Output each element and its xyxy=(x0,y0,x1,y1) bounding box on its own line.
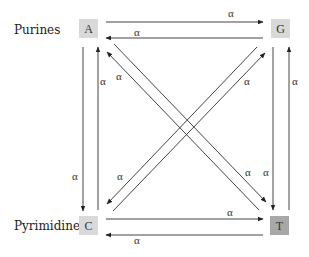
alpha-gt: α xyxy=(263,166,269,178)
node-a: A xyxy=(79,19,98,38)
edge-g-to-c xyxy=(107,47,257,204)
node-a-label: A xyxy=(84,22,93,36)
edge-t-to-a xyxy=(107,52,259,210)
node-c: C xyxy=(79,216,98,235)
alpha-ac: α xyxy=(72,170,78,182)
purines-label: Purines xyxy=(14,23,60,37)
alpha-tg: α xyxy=(292,75,298,87)
alpha-at: α xyxy=(245,166,251,178)
node-t-label: T xyxy=(276,219,284,233)
node-t: T xyxy=(270,216,289,235)
edge-c-to-g xyxy=(113,53,265,211)
alpha-ta: α xyxy=(116,70,122,82)
pyrimidines-label: Pyrimidines xyxy=(14,219,86,233)
alpha-gc: α xyxy=(117,170,123,182)
node-g: G xyxy=(271,19,290,38)
edge-a-to-t xyxy=(114,44,266,202)
node-c-label: C xyxy=(84,219,92,233)
alpha-ga: α xyxy=(134,26,140,38)
alpha-tc: α xyxy=(134,234,140,246)
alpha-ag: α xyxy=(228,7,234,19)
jukes-cantor-diagram: Purines Pyrimidines A G C T α α α α α α … xyxy=(0,0,309,257)
node-g-label: G xyxy=(276,22,285,36)
alpha-ca: α xyxy=(100,75,106,87)
alpha-cg: α xyxy=(244,75,250,87)
alpha-ct: α xyxy=(227,206,233,218)
